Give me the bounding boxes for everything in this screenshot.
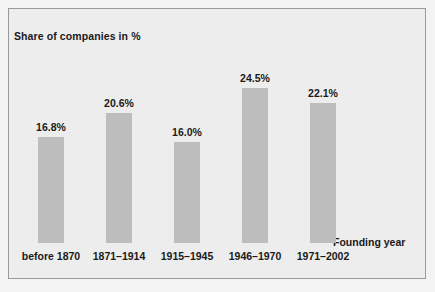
x-axis-label: Founding year bbox=[333, 236, 405, 248]
bar-value-label: 20.6% bbox=[84, 97, 154, 109]
bar-value-label: 16.8% bbox=[16, 121, 86, 133]
bar[interactable] bbox=[38, 137, 64, 243]
bar[interactable] bbox=[174, 142, 200, 243]
bar[interactable] bbox=[242, 88, 268, 243]
bar-value-label: 22.1% bbox=[288, 87, 358, 99]
x-tick-label: 1971–2002 bbox=[280, 250, 366, 262]
y-axis-label: Share of companies in % bbox=[14, 30, 141, 42]
bar[interactable] bbox=[106, 113, 132, 243]
bar[interactable] bbox=[310, 103, 336, 243]
bar-chart-figure: Share of companies in % Founding year 16… bbox=[0, 0, 435, 292]
bar-value-label: 24.5% bbox=[220, 72, 290, 84]
bar-value-label: 16.0% bbox=[152, 126, 222, 138]
